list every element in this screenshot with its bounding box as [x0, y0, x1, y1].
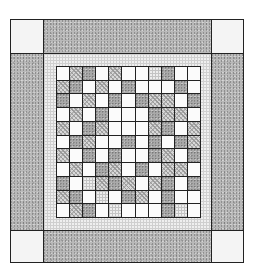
- quilt-block: [57, 122, 69, 135]
- quilt-block: [188, 108, 200, 121]
- quilt-block: [136, 163, 148, 176]
- quilt-block: [57, 177, 69, 190]
- quilt-block: [109, 81, 121, 94]
- quilt-block: [70, 149, 82, 162]
- outer-border-bottom: [43, 230, 212, 263]
- quilt-block: [162, 136, 174, 149]
- quilt-block: [83, 67, 95, 80]
- quilt-block: [57, 136, 69, 149]
- quilt-block: [122, 108, 134, 121]
- quilt-block: [122, 163, 134, 176]
- quilt-block: [149, 191, 161, 204]
- quilt-block: [136, 204, 148, 217]
- quilt-block: [70, 163, 82, 176]
- quilt-block: [175, 67, 187, 80]
- quilt-block: [70, 94, 82, 107]
- quilt-block: [122, 204, 134, 217]
- quilt-block: [70, 122, 82, 135]
- quilt-block: [70, 191, 82, 204]
- quilt-block: [136, 81, 148, 94]
- quilt-block: [122, 136, 134, 149]
- quilt-block: [109, 108, 121, 121]
- quilt-block: [83, 108, 95, 121]
- quilt-block: [149, 94, 161, 107]
- corner-square-bottom-left: [10, 230, 44, 263]
- quilt-block: [122, 177, 134, 190]
- quilt-block: [136, 191, 148, 204]
- quilt-block: [149, 81, 161, 94]
- quilt-block: [149, 108, 161, 121]
- quilt-block: [109, 67, 121, 80]
- quilt-block: [96, 94, 108, 107]
- quilt-block: [96, 204, 108, 217]
- quilt-block: [96, 81, 108, 94]
- quilt-block: [109, 163, 121, 176]
- quilt-block: [188, 81, 200, 94]
- quilt-block: [175, 177, 187, 190]
- quilt-block: [83, 81, 95, 94]
- quilt-block: [188, 94, 200, 107]
- quilt-block: [109, 149, 121, 162]
- corner-square-top-right: [211, 19, 244, 54]
- quilt-block: [175, 149, 187, 162]
- quilt-block: [96, 136, 108, 149]
- quilt-block: [162, 177, 174, 190]
- quilt-block: [122, 149, 134, 162]
- quilt-block: [109, 136, 121, 149]
- quilt-block: [162, 94, 174, 107]
- quilt-block: [122, 81, 134, 94]
- quilt-block: [83, 191, 95, 204]
- quilt-block: [83, 94, 95, 107]
- quilt-block: [175, 81, 187, 94]
- quilt-block: [122, 122, 134, 135]
- quilt-block: [57, 81, 69, 94]
- quilt-block: [83, 136, 95, 149]
- quilt-block: [149, 177, 161, 190]
- quilt-block: [162, 122, 174, 135]
- quilt-block: [175, 94, 187, 107]
- quilt-block: [96, 177, 108, 190]
- quilt-block: [188, 136, 200, 149]
- quilt-block: [83, 177, 95, 190]
- quilt-block: [70, 67, 82, 80]
- quilt-block: [188, 191, 200, 204]
- quilt-block: [96, 149, 108, 162]
- quilt-block: [136, 177, 148, 190]
- quilt-block: [122, 67, 134, 80]
- quilt-block: [109, 94, 121, 107]
- quilt-block: [83, 163, 95, 176]
- quilt-block: [96, 108, 108, 121]
- quilt-block: [136, 94, 148, 107]
- outer-border-left: [10, 53, 44, 231]
- quilt-block: [162, 108, 174, 121]
- quilt-block: [162, 191, 174, 204]
- quilt-block: [96, 67, 108, 80]
- quilt-block: [188, 149, 200, 162]
- quilt-block: [109, 122, 121, 135]
- quilt-block: [70, 177, 82, 190]
- quilt-block: [188, 67, 200, 80]
- quilt-block: [162, 67, 174, 80]
- quilt-diagram: [10, 19, 244, 263]
- quilt-block: [57, 108, 69, 121]
- quilt-block: [83, 149, 95, 162]
- quilt-block: [175, 136, 187, 149]
- quilt-block: [188, 177, 200, 190]
- quilt-block: [109, 177, 121, 190]
- quilt-block: [122, 94, 134, 107]
- quilt-block: [70, 81, 82, 94]
- quilt-block: [175, 204, 187, 217]
- quilt-block: [136, 149, 148, 162]
- quilt-block: [70, 108, 82, 121]
- quilt-block: [83, 204, 95, 217]
- quilt-block: [96, 191, 108, 204]
- quilt-block: [122, 191, 134, 204]
- quilt-block: [175, 163, 187, 176]
- quilt-block: [136, 136, 148, 149]
- quilt-block: [149, 67, 161, 80]
- quilt-block: [57, 94, 69, 107]
- quilt-block: [109, 191, 121, 204]
- quilt-block: [57, 149, 69, 162]
- quilt-block: [96, 163, 108, 176]
- outer-border-top: [43, 19, 212, 54]
